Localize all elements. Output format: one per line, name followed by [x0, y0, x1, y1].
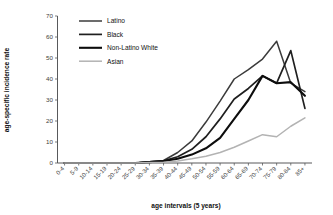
y-tick-label: 40	[46, 75, 53, 82]
y-tick-label: 20	[46, 117, 53, 124]
y-tick-label: 30	[46, 96, 53, 103]
chart-canvas: 010203040506070 0-45-910-1415-1920-2425-…	[0, 0, 333, 215]
y-tick-label: 0	[50, 159, 54, 166]
legend-label-black: Black	[107, 31, 124, 38]
x-axis-title: age intervals (5 years)	[151, 202, 220, 210]
y-tick-label: 10	[46, 138, 53, 145]
chart-figure: 010203040506070 0-45-910-1415-1920-2425-…	[0, 0, 333, 215]
legend-label-latino: Latino	[107, 17, 125, 24]
legend-label-asian: Asian	[107, 58, 124, 65]
y-tick-label: 60	[46, 33, 53, 40]
y-axis-title: age-specific incidence rate	[3, 48, 11, 133]
y-tick-label: 70	[46, 12, 53, 19]
legend-label-non-latino-white: Non-Latino White	[107, 44, 158, 51]
y-tick-label: 50	[46, 54, 53, 61]
